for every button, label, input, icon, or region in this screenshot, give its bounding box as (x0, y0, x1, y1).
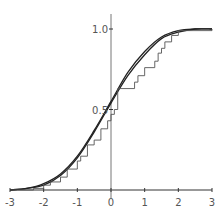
x-tick-label: 3 (209, 197, 215, 208)
x-tick-label: 0 (108, 197, 114, 208)
y-tick-label: 1.0 (92, 24, 108, 35)
axes (10, 14, 212, 198)
x-tick-label: 1 (141, 197, 147, 208)
cdf-chart: -3-2-101230.51.0 (0, 0, 224, 215)
x-tick-label: -1 (72, 197, 82, 208)
x-tick-label: -2 (39, 197, 49, 208)
x-tick-label: -3 (5, 197, 15, 208)
x-tick-label: 2 (175, 197, 181, 208)
tick-labels: -3-2-101230.51.0 (5, 24, 215, 208)
y-tick-label: 0.5 (92, 105, 108, 116)
